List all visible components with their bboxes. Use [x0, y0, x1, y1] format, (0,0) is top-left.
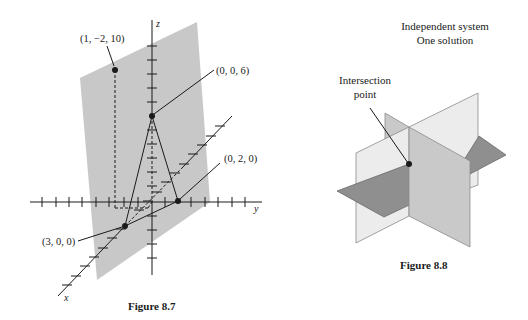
figure-8-8-caption: Figure 8.8	[400, 259, 447, 271]
figure-8-7-graphic	[0, 0, 528, 320]
point-label-3-0-0: (3, 0, 0)	[42, 237, 75, 248]
point-3-0-0	[122, 223, 128, 229]
figure-8-8-title-line2: One solution	[380, 34, 510, 48]
y-axis-label: y	[254, 204, 258, 214]
point-0-0-6	[149, 113, 155, 119]
plane	[80, 22, 210, 280]
figure-8-8-title-line1: Independent system	[380, 20, 510, 34]
point-label-0-2-0: (0, 2, 0)	[224, 154, 257, 165]
intersection-point	[406, 161, 412, 167]
figure-8-7-caption: Figure 8.7	[128, 300, 175, 312]
intersection-annotation-line2: point	[330, 88, 400, 102]
figure-8-8-title: Independent system One solution	[380, 20, 510, 48]
point-label-0-0-6: (0, 0, 6)	[216, 66, 249, 77]
intersection-annotation: Intersection point	[330, 74, 400, 102]
point-0-2-0	[175, 198, 181, 204]
z-axis-label: z	[156, 19, 160, 29]
intersection-annotation-line1: Intersection	[330, 74, 400, 88]
point-label-1-neg2-10: (1, −2, 10)	[80, 34, 124, 45]
point-1-neg2-10	[112, 67, 118, 73]
x-axis-label: x	[64, 293, 68, 303]
figure-8-8-graphic	[337, 93, 506, 247]
